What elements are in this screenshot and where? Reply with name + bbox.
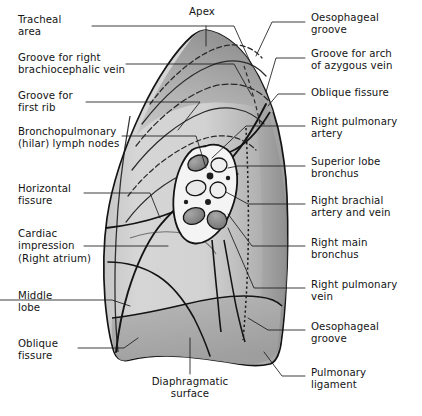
label-groove-for-right-brachiocephalic-vein: Groove for right brachiocephalic vein — [18, 52, 138, 77]
label-oesophageal-groove-top: Oesophageal groove — [311, 12, 415, 37]
label-right-main-bronchus: Right main bronchus — [311, 237, 407, 262]
right-brachial-vessels-section — [210, 182, 226, 198]
lymph-node — [184, 200, 188, 204]
label-pulmonary-ligament: Pulmonary ligament — [311, 367, 407, 392]
lung-body — [104, 30, 288, 366]
leader-oesophageal-groove-top — [256, 22, 305, 56]
label-right-pulmonary-artery: Right pulmonary artery — [311, 116, 417, 141]
superior-lobe-bronchus-section — [211, 158, 227, 172]
label-right-brachial-artery-and-vein: Right brachial artery and vein — [311, 195, 417, 220]
lymph-node — [207, 173, 214, 180]
leader-oblique-fissure-right — [268, 94, 305, 106]
label-diaphragmatic-surface: Diaphragmatic surface — [130, 376, 250, 401]
label-superior-lobe-bronchus: Superior lobe bronchus — [311, 156, 415, 181]
label-oesophageal-groove-bottom: Oesophageal groove — [311, 321, 415, 346]
label-groove-for-arch-of-azygous-vein: Groove for arch of azygous vein — [311, 48, 419, 73]
label-cardiac-impression: Cardiac impression (Right atrium) — [18, 228, 110, 265]
lymph-node — [205, 199, 211, 205]
label-horizontal-fissure: Horizontal fissure — [18, 183, 102, 208]
lymph-node — [226, 176, 230, 180]
label-oblique-fissure-right: Oblique fissure — [311, 87, 419, 99]
lung-anatomy-figure: Apex Tracheal area Groove for right brac… — [0, 0, 422, 416]
label-bronchopulmonary-lymph-nodes: Bronchopulmonary (hilar) lymph nodes — [18, 126, 134, 151]
label-middle-lobe: Middle lobe — [18, 290, 94, 315]
label-groove-for-first-rib: Groove for first rib — [18, 90, 104, 115]
label-oblique-fissure-left: Oblique fissure — [18, 338, 94, 363]
label-right-pulmonary-vein: Right pulmonary vein — [311, 279, 417, 304]
label-apex: Apex — [172, 6, 232, 18]
label-tracheal-area: Tracheal area — [18, 14, 104, 39]
leader-groove-azygous — [266, 58, 305, 92]
